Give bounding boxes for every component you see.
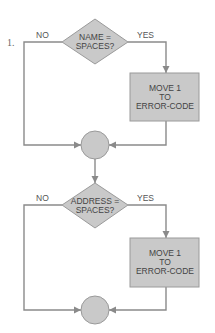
arrowhead-merge-1 — [109, 142, 116, 149]
process-text-2-line-3: ERROR-CODE — [136, 266, 194, 276]
yes-branch-line-2 — [128, 205, 166, 238]
flowchart: 1. NAME = SPACES? NO YES MOVE 1 TO ERROR… — [0, 0, 215, 333]
decision-text-2-line-2: SPACES? — [76, 205, 115, 215]
junction-connector-2 — [81, 296, 109, 324]
arrowhead-merge-2 — [109, 307, 116, 314]
decision-text-1-line-2: SPACES? — [76, 41, 115, 51]
arrowhead-no-2 — [74, 307, 81, 314]
junction-connector-1 — [81, 131, 109, 159]
block-2: ADDRESS = SPACES? NO YES MOVE 1 TO ERROR… — [24, 183, 199, 324]
yes-branch-line-1 — [128, 42, 166, 73]
arrowhead-yes-2 — [163, 231, 170, 238]
arrowhead-no-1 — [74, 142, 81, 149]
no-branch-line-1 — [24, 42, 81, 145]
process-out-line-2 — [109, 287, 166, 310]
arrowhead-block-connector — [92, 176, 99, 183]
process-out-line-1 — [109, 121, 166, 145]
arrowhead-yes-1 — [163, 66, 170, 73]
no-branch-line-2 — [24, 205, 81, 310]
no-label-2: NO — [36, 193, 49, 203]
no-label-1: NO — [36, 30, 49, 40]
yes-label-2: YES — [137, 193, 154, 203]
step-number: 1. — [7, 37, 15, 48]
block-1: NAME = SPACES? NO YES MOVE 1 TO ERROR-CO… — [24, 19, 199, 159]
process-text-1-line-3: ERROR-CODE — [136, 101, 194, 111]
yes-label-1: YES — [137, 30, 154, 40]
